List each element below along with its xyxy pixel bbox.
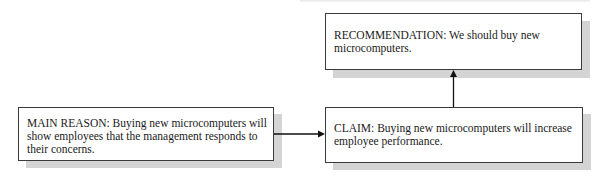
arrow-claim-to-recommendation: [450, 70, 457, 107]
arrow-reason-to-claim: [274, 131, 325, 138]
connector-arrows: [0, 0, 603, 179]
